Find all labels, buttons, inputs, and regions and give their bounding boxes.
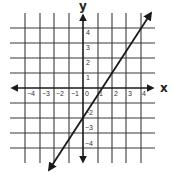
x-tick-label: −2 (56, 90, 64, 97)
x-tick-label: 3 (128, 90, 132, 97)
x-axis-label: x (160, 81, 168, 95)
x-tick-label: −1 (71, 90, 79, 97)
coordinate-plane: y x −4 −3 −2 −1 0 1 2 3 4 4 3 2 1 −2 −3 … (0, 0, 175, 173)
y-tick-label: −3 (85, 124, 93, 131)
y-tick-label: −2 (85, 109, 93, 116)
y-tick-label: 2 (86, 59, 90, 66)
x-tick-labels: −4 −3 −2 −1 0 1 2 3 4 (27, 90, 146, 97)
x-tick-label: −3 (42, 90, 50, 97)
x-tick-label: −4 (27, 90, 35, 97)
origin-label: 0 (85, 90, 89, 97)
y-tick-label: 3 (86, 44, 90, 51)
y-tick-label: 4 (86, 29, 90, 36)
x-tick-label: 2 (114, 90, 118, 97)
x-tick-label: 1 (99, 90, 103, 97)
y-axis-label: y (79, 0, 87, 13)
y-tick-label: −4 (85, 140, 93, 147)
y-tick-label: 1 (86, 74, 90, 81)
x-tick-label: 4 (142, 90, 146, 97)
